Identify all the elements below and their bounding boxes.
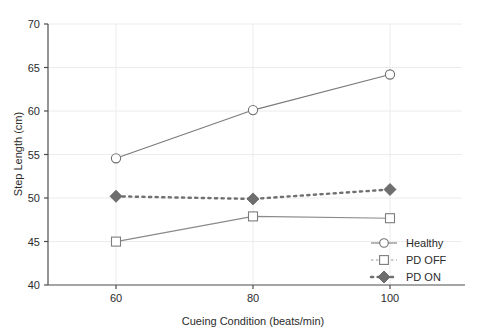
x-tick-label-80: 80 (247, 292, 259, 304)
y-axis-title: Step Length (cm) (12, 112, 24, 196)
y-tick-label-65: 65 (28, 62, 40, 74)
healthy-marker (248, 106, 257, 115)
y-tick-label-55: 55 (28, 149, 40, 161)
pd-on-marker (384, 184, 396, 196)
y-tick-label-50: 50 (28, 192, 40, 204)
legend-label-pd-on: PD ON (406, 271, 441, 283)
y-tick-label-60: 60 (28, 105, 40, 117)
x-tick-label-100: 100 (381, 292, 399, 304)
line-chart: 70 65 60 55 50 45 40 60 80 100 Cueing Co… (0, 0, 477, 336)
legend-item-healthy[interactable]: Healthy (371, 237, 444, 249)
chart-legend: Healthy PD OFF PD ON (371, 237, 447, 283)
legend-marker-open-square-icon (380, 256, 389, 265)
legend-item-pd-on[interactable]: PD ON (371, 271, 441, 283)
x-axis-title: Cueing Condition (beats/min) (182, 315, 324, 327)
horizontal-gridlines (48, 24, 462, 242)
y-tick-label-45: 45 (28, 236, 40, 248)
pd-on-marker (110, 190, 122, 202)
pd-on-marker (247, 193, 259, 205)
legend-marker-open-circle-icon (380, 239, 389, 248)
y-tick-label-70: 70 (28, 18, 40, 30)
pd-off-marker (112, 237, 121, 246)
legend-marker-filled-diamond-icon (378, 271, 390, 283)
legend-label-pd-off: PD OFF (406, 254, 447, 266)
legend-label-healthy: Healthy (406, 237, 444, 249)
healthy-marker (385, 70, 394, 79)
y-tick-label-40: 40 (28, 279, 40, 291)
pd-off-marker (386, 214, 395, 223)
legend-item-pd-off[interactable]: PD OFF (371, 254, 447, 266)
pd-off-marker (249, 212, 258, 221)
healthy-marker (111, 154, 120, 163)
chart-figure: 70 65 60 55 50 45 40 60 80 100 Cueing Co… (0, 0, 477, 336)
x-tick-label-60: 60 (110, 292, 122, 304)
